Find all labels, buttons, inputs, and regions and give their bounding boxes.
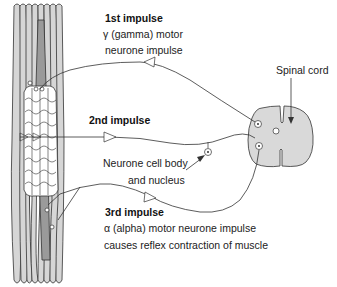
sensory-direction-arrow [104,132,116,142]
gamma-direction-arrow [144,57,155,67]
first-impulse-heading: 1st impulse [105,12,163,24]
cell-body-label-line1: Neurone cell body [103,157,188,169]
gamma-motor-neurone [40,62,255,122]
second-impulse-heading: 2nd impulse [89,114,150,126]
third-impulse-heading: 3rd impulse [105,206,164,218]
central-canal [273,128,279,134]
alpha-direction-arrow [144,192,156,202]
motor-end-plate [50,225,54,229]
third-impulse-line2: causes reflex contraction of muscle [104,239,268,251]
motor-end-plate [45,208,49,212]
spindle-sensory-region [24,86,58,196]
spinal-cord-label: Spinal cord [276,64,329,76]
cell-body-label-line2: and nucleus [128,174,185,186]
first-impulse-line2: neurone impulse [105,44,183,56]
third-impulse-line1: α (alpha) motor neurone impulse [104,222,256,234]
first-impulse-line1: γ (gamma) motor [103,28,183,40]
